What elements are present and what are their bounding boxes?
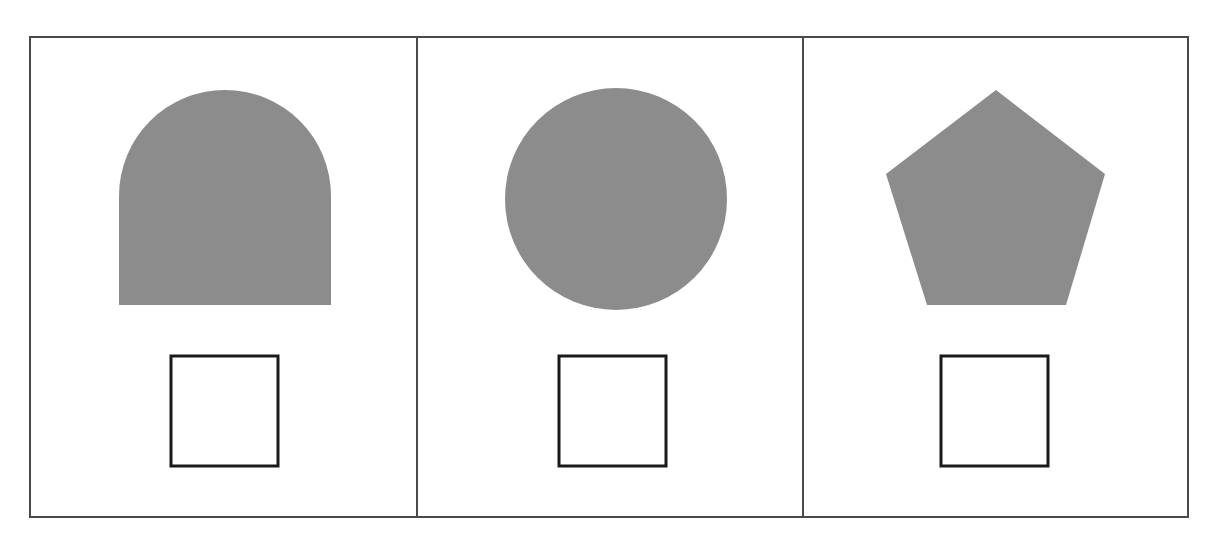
figure-root: [0, 0, 1219, 541]
arch-shape: [119, 90, 331, 305]
circle-shape: [505, 88, 727, 310]
figure-canvas: [0, 0, 1219, 541]
